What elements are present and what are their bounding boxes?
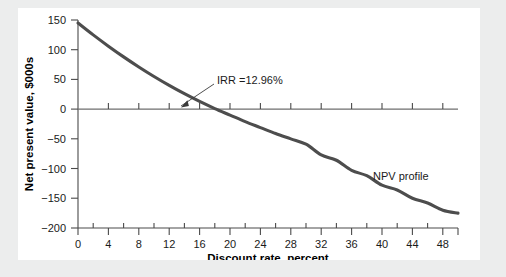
x-tick-label-4: 4 — [105, 238, 111, 250]
x-tick-label-24: 24 — [254, 238, 266, 250]
figure-card: 150 100 50 0 −50 −100 −150 −200 Net pres… — [18, 8, 480, 260]
x-tick-label-32: 32 — [315, 238, 327, 250]
y-tick-label-m100: −100 — [41, 163, 66, 175]
y-tick-label-50: 50 — [54, 73, 66, 85]
x-axis-title: Discount rate, percent — [207, 252, 329, 260]
irr-annotation-label: IRR =12.96% — [217, 74, 283, 86]
npv-profile-chart: 150 100 50 0 −50 −100 −150 −200 Net pres… — [18, 8, 480, 260]
x-tick-label-16: 16 — [193, 238, 205, 250]
npv-profile-label: NPV profile — [373, 170, 429, 182]
x-tick-label-44: 44 — [406, 238, 418, 250]
y-tick-label-150: 150 — [48, 14, 66, 26]
x-tick-label-40: 40 — [376, 238, 388, 250]
y-tick-label-0: 0 — [60, 103, 66, 115]
plot-background — [18, 8, 480, 260]
y-tick-label-m200: −200 — [41, 222, 66, 234]
y-tick-label-100: 100 — [48, 44, 66, 56]
x-tick-label-20: 20 — [224, 238, 236, 250]
x-tick-label-36: 36 — [345, 238, 357, 250]
x-tick-label-48: 48 — [437, 238, 449, 250]
x-tick-label-0: 0 — [75, 238, 81, 250]
x-tick-label-8: 8 — [136, 238, 142, 250]
y-tick-label-m50: −50 — [47, 133, 66, 145]
y-axis-title: Net present value, $000s — [23, 57, 35, 191]
x-tick-label-12: 12 — [163, 238, 175, 250]
x-tick-label-28: 28 — [285, 238, 297, 250]
y-tick-label-m150: −150 — [41, 192, 66, 204]
